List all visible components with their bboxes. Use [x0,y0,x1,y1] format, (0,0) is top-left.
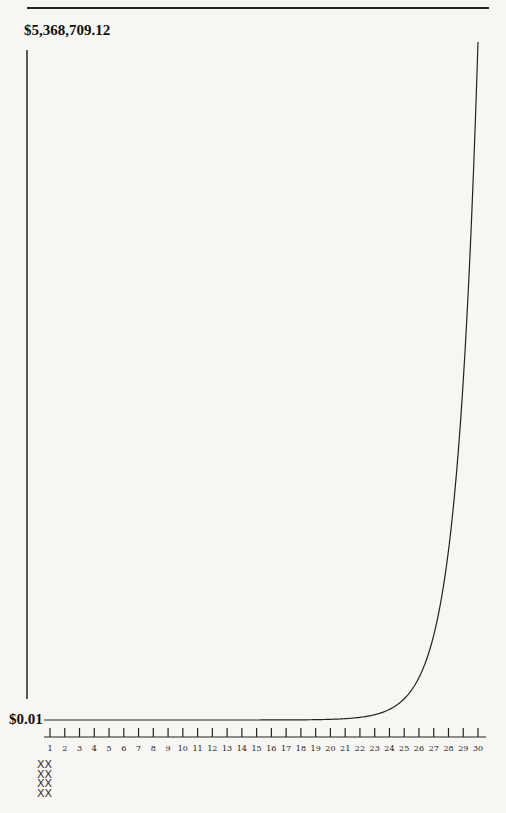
x-tick-label: 2 [62,744,67,753]
x-tick-label: 3 [77,744,82,753]
x-tick-label: 15 [252,744,262,753]
x-tick-label: 12 [207,744,217,753]
x-tick-label: 17 [281,744,291,753]
x-tick-label: 7 [136,744,141,753]
x-tick-label: 28 [443,744,453,753]
x-tick-label: 25 [399,744,409,753]
x-tick-label: 23 [370,744,380,753]
x-tick-label: 11 [192,744,202,753]
x-tick-label: 18 [296,744,306,753]
x-tick-label: 24 [384,744,394,753]
x-tick-label: 9 [166,744,171,753]
x-tick-label: 8 [151,744,156,753]
x-marks-decoration: XX XX XX XX [37,760,52,798]
x-tick-label: 5 [106,744,111,753]
x-tick-label: 10 [178,744,188,753]
x-tick-label: 16 [266,744,276,753]
x-tick-label: 21 [340,744,350,753]
x-tick-label: 13 [222,744,232,753]
x-tick-label: 22 [355,744,365,753]
x-tick-label: 19 [311,744,321,753]
chart-canvas: 1234567891011121314151617181920212223242… [0,0,506,813]
x-tick-label: 26 [414,744,424,753]
x-tick-label: 4 [92,744,97,753]
x-tick-label: 27 [429,744,439,753]
growth-curve [44,42,478,720]
x-tick-label: 30 [473,744,483,753]
x-tick-label: 20 [325,744,335,753]
x-tick-label: 29 [458,744,468,753]
x-tick-label: 1 [47,744,52,753]
x-tick-label: 6 [121,744,126,753]
x-tick-label: 14 [237,744,247,753]
